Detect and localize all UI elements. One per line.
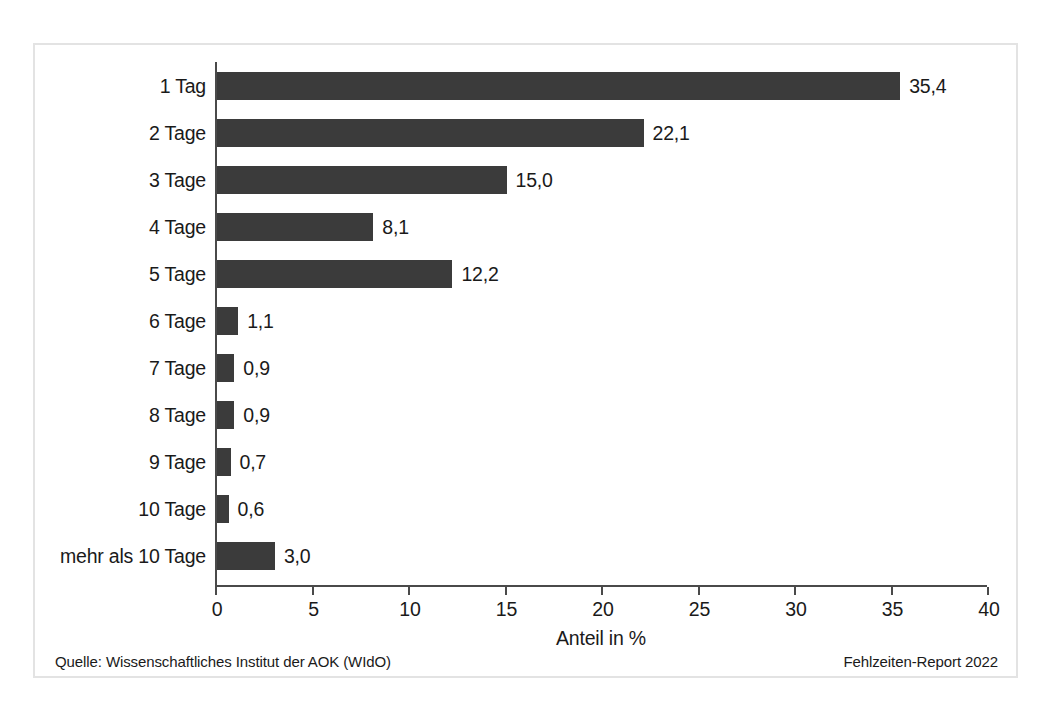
category-label: 5 Tage: [149, 262, 213, 285]
bar[interactable]: [217, 401, 234, 429]
x-tick-mark: [601, 587, 603, 595]
bar-value-label: 22,1: [653, 121, 690, 144]
bar[interactable]: [217, 307, 238, 335]
x-tick-mark: [215, 587, 217, 595]
category-label: 3 Tage: [149, 168, 213, 191]
category-label: 2 Tage: [149, 121, 213, 144]
bar-row[interactable]: 9 Tage0,7: [35, 438, 1020, 485]
category-label: 10 Tage: [138, 497, 213, 520]
bar-value-label: 1,1: [247, 309, 274, 332]
x-tick-label: 15: [477, 598, 537, 621]
category-label: mehr als 10 Tage: [60, 544, 213, 567]
bar-row[interactable]: 5 Tage12,2: [35, 250, 1020, 297]
x-tick-label: 25: [670, 598, 730, 621]
bar-row[interactable]: 6 Tage1,1: [35, 297, 1020, 344]
bar[interactable]: [217, 448, 231, 476]
bar[interactable]: [217, 495, 229, 523]
bar-row[interactable]: 8 Tage0,9: [35, 391, 1020, 438]
category-label: 6 Tage: [149, 309, 213, 332]
plot-area: 0510152025303540 1 Tag35,42 Tage22,13 Ta…: [35, 45, 1020, 680]
bar-row[interactable]: 4 Tage8,1: [35, 203, 1020, 250]
bar[interactable]: [217, 72, 900, 100]
bar-value-label: 35,4: [909, 74, 946, 97]
x-tick-mark: [891, 587, 893, 595]
x-tick-label: 10: [380, 598, 440, 621]
x-tick-mark: [794, 587, 796, 595]
x-tick-label: 35: [863, 598, 923, 621]
x-tick-label: 0: [187, 598, 247, 621]
category-label: 1 Tag: [160, 74, 213, 97]
bar[interactable]: [217, 354, 234, 382]
category-label: 7 Tage: [149, 356, 213, 379]
bar-value-label: 0,6: [238, 497, 265, 520]
bar-row[interactable]: 3 Tage15,0: [35, 156, 1020, 203]
x-tick-mark: [987, 587, 989, 595]
x-tick-label: 30: [766, 598, 826, 621]
bar-value-label: 0,7: [240, 450, 267, 473]
category-label: 4 Tage: [149, 215, 213, 238]
bar-value-label: 0,9: [243, 403, 270, 426]
x-tick-mark: [505, 587, 507, 595]
bar-row[interactable]: 1 Tag35,4: [35, 62, 1020, 109]
bar[interactable]: [217, 260, 452, 288]
report-note: Fehlzeiten-Report 2022: [843, 653, 998, 670]
x-axis-title: Anteil in %: [215, 627, 987, 650]
bar-value-label: 3,0: [284, 544, 311, 567]
bar-row[interactable]: 7 Tage0,9: [35, 344, 1020, 391]
bar-value-label: 0,9: [243, 356, 270, 379]
bar[interactable]: [217, 166, 507, 194]
bar-row[interactable]: 10 Tage0,6: [35, 485, 1020, 532]
x-tick-label: 40: [959, 598, 1019, 621]
x-tick-mark: [408, 587, 410, 595]
x-tick-mark: [312, 587, 314, 595]
bar[interactable]: [217, 542, 275, 570]
x-tick-label: 5: [284, 598, 344, 621]
x-tick-label: 20: [573, 598, 633, 621]
bar[interactable]: [217, 119, 644, 147]
bar-value-label: 15,0: [516, 168, 553, 191]
category-label: 8 Tage: [149, 403, 213, 426]
chart-figure: 0510152025303540 1 Tag35,42 Tage22,13 Ta…: [33, 43, 1018, 678]
x-tick-mark: [698, 587, 700, 595]
source-note: Quelle: Wissenschaftliches Institut der …: [55, 653, 391, 670]
bar-value-label: 12,2: [461, 262, 498, 285]
bar-row[interactable]: mehr als 10 Tage3,0: [35, 532, 1020, 579]
category-label: 9 Tage: [149, 450, 213, 473]
bar-value-label: 8,1: [382, 215, 409, 238]
bar-row[interactable]: 2 Tage22,1: [35, 109, 1020, 156]
bar[interactable]: [217, 213, 373, 241]
